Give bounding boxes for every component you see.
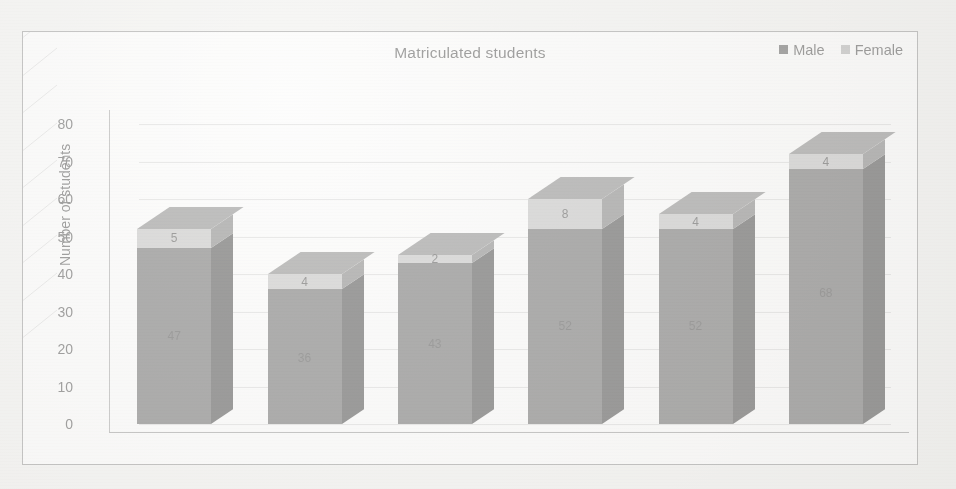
bar-segment-male[interactable]: 43 xyxy=(398,263,472,424)
bar-value-label-male: 68 xyxy=(789,286,863,300)
bar-segment-male[interactable]: 52 xyxy=(659,229,733,424)
y-axis-tick-label: 40 xyxy=(57,266,73,282)
bar-value-label-male: 47 xyxy=(137,329,211,343)
bar-value-label-female: 4 xyxy=(789,155,863,169)
gridline xyxy=(139,162,891,163)
bar-column[interactable]: 364 xyxy=(268,274,342,424)
gridline xyxy=(139,124,891,125)
legend-item-female[interactable]: Female xyxy=(841,42,903,58)
gridline xyxy=(139,424,891,425)
bar-value-label-female: 8 xyxy=(528,207,602,221)
y-axis-tick-label: 80 xyxy=(57,116,73,132)
bar-face-side xyxy=(733,214,755,424)
y-axis-tick-label: 10 xyxy=(57,379,73,395)
bar-segment-female[interactable]: 4 xyxy=(268,274,342,289)
y-axis-tick-label: 30 xyxy=(57,304,73,320)
chart-container: Matriculated students Male Female Number… xyxy=(22,31,918,465)
bar-value-label-male: 52 xyxy=(659,319,733,333)
bar-segment-male[interactable]: 47 xyxy=(137,248,211,424)
bar-segment-female[interactable]: 4 xyxy=(659,214,733,229)
legend-swatch-female-icon xyxy=(841,45,850,54)
bar-value-label-male: 36 xyxy=(268,351,342,365)
bar-column[interactable]: 432 xyxy=(398,255,472,424)
bar-value-label-male: 43 xyxy=(398,337,472,351)
bar-column[interactable]: 475 xyxy=(137,229,211,424)
gridline xyxy=(139,312,891,313)
bar-face-side xyxy=(602,214,624,424)
gridline xyxy=(139,349,891,350)
bar-column[interactable]: 684 xyxy=(789,154,863,424)
bar-segment-male[interactable]: 36 xyxy=(268,289,342,424)
gridline xyxy=(139,199,891,200)
bar-column[interactable]: 524 xyxy=(659,214,733,424)
y-axis-tick-label: 50 xyxy=(57,229,73,245)
gridline xyxy=(139,274,891,275)
bar-segment-female[interactable]: 4 xyxy=(789,154,863,169)
bar-segment-female[interactable]: 8 xyxy=(528,199,602,229)
bar-segment-female[interactable]: 5 xyxy=(137,229,211,248)
gridline xyxy=(139,237,891,238)
y-axis-tick-label: 0 xyxy=(65,416,73,432)
bar-column[interactable]: 528 xyxy=(528,199,602,424)
bar-value-label-male: 52 xyxy=(528,319,602,333)
bar-segment-male[interactable]: 52 xyxy=(528,229,602,424)
y-axis-tick-label: 70 xyxy=(57,154,73,170)
bar-segment-female[interactable]: 2 xyxy=(398,255,472,263)
legend-label-female: Female xyxy=(855,42,903,58)
y-axis-tick-label: 20 xyxy=(57,341,73,357)
bar-segment-male[interactable]: 68 xyxy=(789,169,863,424)
y-axis-tick-label: 60 xyxy=(57,191,73,207)
gridline xyxy=(139,387,891,388)
x-axis-line xyxy=(109,432,909,433)
bar-value-label-female: 4 xyxy=(659,215,733,229)
bar-face-side xyxy=(342,274,364,424)
bar-face-side xyxy=(211,233,233,424)
bar-value-label-female: 5 xyxy=(137,231,211,245)
bar-face-side xyxy=(472,248,494,424)
bar-value-label-female: 2 xyxy=(398,252,472,266)
bar-face-side xyxy=(863,154,885,424)
plot-area: 01020304050607080 475364432528524684 201… xyxy=(109,124,891,424)
bar-value-label-female: 4 xyxy=(268,275,342,289)
